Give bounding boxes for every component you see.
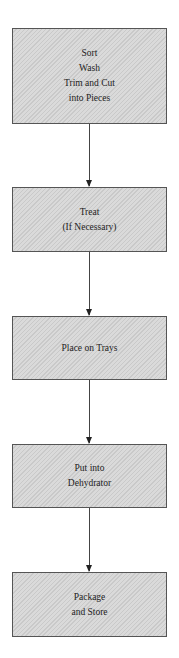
arrow-down-icon <box>89 380 90 443</box>
arrow-down-icon <box>89 252 90 315</box>
step-text: Sort <box>82 46 98 61</box>
step-treat: Treat (If Necessary) <box>12 187 167 252</box>
step-sort-wash-trim: Sort Wash Trim and Cut into Pieces <box>12 28 167 124</box>
arrow-down-icon <box>89 508 90 571</box>
step-text: Package <box>74 590 106 605</box>
step-package-and-store: Package and Store <box>12 572 167 637</box>
step-text: Put into <box>75 461 105 476</box>
step-text: Dehydrator <box>68 476 111 491</box>
step-text: and Store <box>71 605 107 620</box>
step-text: Trim and Cut <box>64 76 115 91</box>
step-place-on-trays: Place on Trays <box>12 316 167 380</box>
step-text: into Pieces <box>69 91 110 106</box>
step-put-into-dehydrator: Put into Dehydrator <box>12 444 167 508</box>
step-text: Wash <box>79 61 100 76</box>
step-text: (If Necessary) <box>62 220 116 235</box>
step-text: Treat <box>80 205 100 220</box>
step-text: Place on Trays <box>62 341 118 356</box>
arrow-down-icon <box>89 124 90 186</box>
